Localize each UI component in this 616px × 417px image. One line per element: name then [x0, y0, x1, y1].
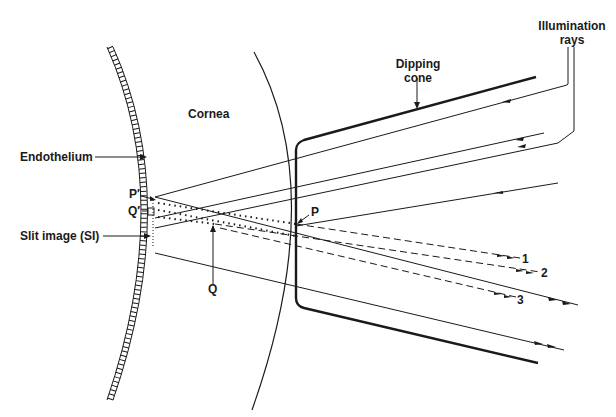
ray-1-label: 1 — [522, 252, 529, 266]
q-prime-label: Q′ — [128, 204, 140, 218]
illumination-rays-label-line2: rays — [534, 33, 610, 47]
dotted-rays — [158, 203, 296, 236]
illumination-leaders — [558, 47, 574, 143]
dipping-cone-label-line1: Dipping — [392, 57, 444, 71]
dipping-cone-label-line2: cone — [392, 71, 444, 85]
p-prime-label: P′ — [129, 187, 140, 201]
cornea-label: Cornea — [188, 107, 229, 121]
p-label: P — [311, 205, 319, 219]
ray-3-label: 3 — [517, 293, 524, 307]
outgoing-arrowheads — [534, 297, 571, 348]
ray-2-label: 2 — [541, 266, 548, 280]
dipping-cone-label: Dipping cone — [392, 57, 444, 85]
endothelium-layer — [107, 47, 148, 400]
specular-microscopy-diagram — [0, 0, 616, 417]
reflected-rays — [155, 197, 578, 350]
slit-image-label: Slit image (SI) — [20, 229, 99, 243]
illumination-rays-label-line1: Illumination — [534, 19, 610, 33]
incoming-arrowheads — [494, 99, 526, 194]
illumination-rays-label: Illumination rays — [534, 19, 610, 47]
endothelium-label: Endothelium — [20, 150, 93, 164]
dashed-rays — [215, 224, 540, 298]
q-label: Q — [208, 282, 217, 296]
